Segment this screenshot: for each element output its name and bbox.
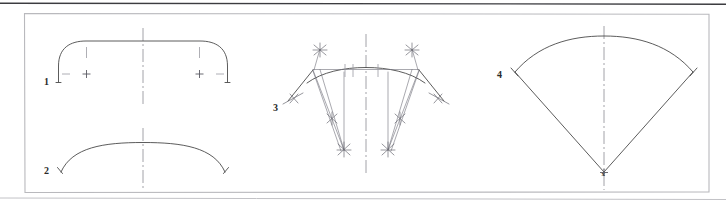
figure-3-group: 3 — [273, 34, 449, 175]
figure-1-group: 1 — [44, 28, 230, 104]
sheet-frame — [0, 3, 726, 199]
figure-3-xmark-upper-left — [313, 43, 327, 57]
figure-3-xmark-mid-left — [327, 112, 337, 125]
bottom-rule-line — [0, 198, 726, 200]
figure-4-right-radius — [604, 72, 693, 172]
frame-border-rect — [25, 14, 710, 193]
drawing-sheet: 1 2 — [0, 0, 726, 207]
top-rule-line — [0, 3, 726, 4]
figure-3-xmark-lower-left — [337, 142, 351, 157]
figure-3-xmark-mid-right — [395, 112, 405, 125]
figure-1-plus-left — [83, 70, 91, 78]
figure-3-label: 3 — [273, 102, 278, 113]
figure-1-label: 1 — [44, 76, 49, 87]
figure-4-label: 4 — [497, 69, 502, 80]
technical-drawing-canvas: 1 2 — [0, 0, 726, 207]
figure-3-xmark-upper-right — [405, 43, 419, 57]
figure-4-left-radius — [515, 72, 604, 172]
figure-4-apex-label: x — [602, 170, 606, 178]
figure-4-group: x 4 — [497, 26, 697, 190]
figure-3-left-radials — [313, 70, 344, 152]
figure-2-group: 2 — [44, 128, 229, 190]
figure-1-plus-right — [196, 70, 204, 78]
figure-3-xmark-lower-right — [381, 142, 395, 157]
figure-3-right-radials — [388, 70, 419, 152]
figure-2-label: 2 — [44, 165, 49, 176]
